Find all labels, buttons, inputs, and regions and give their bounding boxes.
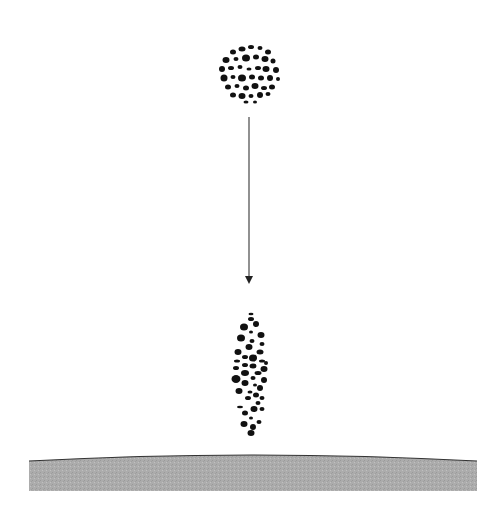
elongated-droplet-cluster — [232, 313, 269, 436]
fall-arrow — [245, 117, 253, 284]
initial-droplet-cluster — [219, 45, 280, 104]
diagram-canvas — [0, 0, 501, 514]
ground-surface — [29, 455, 477, 491]
